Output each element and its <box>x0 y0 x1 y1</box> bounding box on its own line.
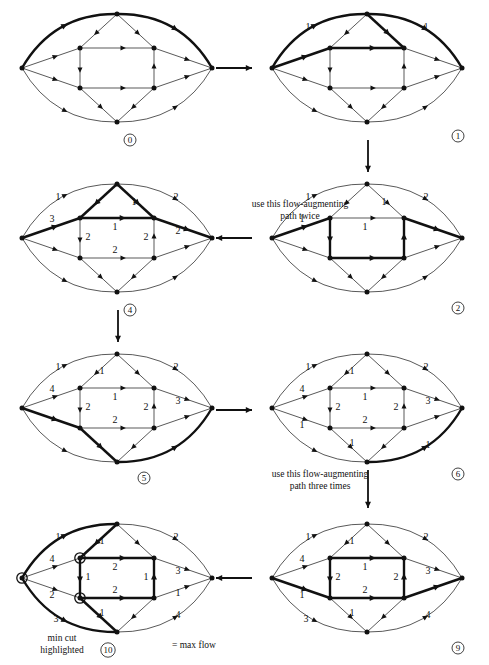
node-snk <box>210 406 215 411</box>
edge-label-ibl-to-ibr: 2 <box>363 414 368 425</box>
edge-label-ibl-to-bot: 1 <box>350 437 355 448</box>
edge-label-ibl-to-ibr: 2 <box>363 584 368 595</box>
node-ibr <box>402 426 407 431</box>
edge-label-src-to-itl: 3 <box>50 213 55 224</box>
edge-label-itl-to-ibl: 2 <box>336 401 341 412</box>
edge-label-ibr-to-itr: 2 <box>394 571 399 582</box>
node-bot <box>365 120 370 125</box>
node-src <box>20 236 25 241</box>
edge-label-src-to-ibl: 2 <box>50 589 55 600</box>
node-ibr <box>152 596 157 601</box>
node-itl <box>328 46 333 51</box>
node-top <box>115 182 120 187</box>
node-src <box>20 576 25 581</box>
edge-label-bot-to-sink: 4 <box>176 609 181 620</box>
edge-label-itl-to-itr: 1 <box>113 391 118 402</box>
node-snk <box>460 576 465 581</box>
node-ibr <box>152 256 157 261</box>
node-itr <box>402 46 407 51</box>
edge-label-ibl-to-bot: 1 <box>100 607 105 618</box>
node-ibr <box>152 86 157 91</box>
edge-label-itl-to-itr: 2 <box>113 561 118 572</box>
note-use-path-three-line1: use this flow-augmenting <box>272 469 369 479</box>
node-bot <box>365 630 370 635</box>
node-ibl <box>328 256 333 261</box>
node-src <box>270 236 275 241</box>
edge-label-top-right-outer: 2 <box>174 531 179 542</box>
edge-label-itr-to-sink: 3 <box>426 565 431 576</box>
edge-label-itl-to-itr: 1 <box>113 221 118 232</box>
edge-label-ibl-to-ibr: 2 <box>113 414 118 425</box>
edge-label-src-to-bot: 3 <box>54 613 59 624</box>
edge-label-top-right-outer: 2 <box>424 531 429 542</box>
figure-canvas: 0111121112123112222412141222351214112223… <box>0 0 489 665</box>
node-ibr <box>402 256 407 261</box>
note-use-path-twice-line1: use this flow-augmenting <box>252 199 349 209</box>
node-top <box>115 12 120 17</box>
svg-text:5: 5 <box>142 473 147 483</box>
node-itr <box>402 556 407 561</box>
edge-label-src-to-itl: 4 <box>300 553 305 564</box>
node-ibr <box>402 596 407 601</box>
node-src <box>20 66 25 71</box>
node-ibr <box>152 426 157 431</box>
svg-text:1: 1 <box>456 131 461 141</box>
edge-label-top-to-itl: 1 <box>100 365 105 376</box>
note-max-flow: = max flow <box>172 640 216 650</box>
edge-label-ibr-to-sink: 1 <box>176 587 181 598</box>
edge-label-bot-to-sink: 1 <box>426 439 431 450</box>
node-top <box>115 352 120 357</box>
node-src <box>270 66 275 71</box>
edge-label-top-right-outer: 2 <box>174 191 179 202</box>
edge-label-top-left-outer: 1 <box>306 361 311 372</box>
node-ibr <box>402 86 407 91</box>
edge-label-ibr-to-itr: 2 <box>394 401 399 412</box>
edge-label-top-left-outer: 1 <box>56 361 61 372</box>
node-ibl <box>78 256 83 261</box>
edge-label-src-to-itl: 4 <box>300 383 305 394</box>
node-src <box>20 406 25 411</box>
node-itr <box>152 386 157 391</box>
node-itl <box>78 216 83 221</box>
note-min-cut-line1: min cut <box>48 633 77 643</box>
node-itl <box>328 386 333 391</box>
node-itl <box>328 216 333 221</box>
node-itr <box>402 216 407 221</box>
node-itl <box>78 386 83 391</box>
edge-label-itr-to-sink: 3 <box>176 395 181 406</box>
edge-label-src-to-itl: 4 <box>50 383 55 394</box>
note-min-cut-line2: highlighted <box>40 645 84 655</box>
flow-network-figure: 0111121112123112222412141222351214112223… <box>0 0 489 665</box>
node-itr <box>152 216 157 221</box>
node-top <box>365 352 370 357</box>
node-top <box>115 522 120 527</box>
edge-label-itr-to-sink: 3 <box>176 565 181 576</box>
node-ibl <box>78 596 83 601</box>
edge-label-top-left-outer: 1 <box>306 21 311 32</box>
node-src <box>270 406 275 411</box>
node-itl <box>328 556 333 561</box>
edge-label-top-to-itl: 1 <box>100 535 105 546</box>
edge-label-itr-to-top: 1 <box>132 196 137 207</box>
edge-label-src-to-itl: 4 <box>50 553 55 564</box>
node-bot <box>115 460 120 465</box>
edge-label-top-right-outer: 1 <box>424 21 429 32</box>
note-use-path-three-line2: path three times <box>290 481 351 491</box>
edge-label-itr-to-top: 1 <box>382 196 387 207</box>
edge-label-itl-to-ibl: 2 <box>336 571 341 582</box>
node-src <box>270 576 275 581</box>
node-bot <box>365 460 370 465</box>
node-snk <box>460 406 465 411</box>
svg-text:6: 6 <box>456 469 461 479</box>
node-ibl <box>328 596 333 601</box>
svg-text:9: 9 <box>456 643 461 653</box>
node-top <box>365 522 370 527</box>
edge-label-top-right-outer: 2 <box>424 191 429 202</box>
node-ibl <box>328 86 333 91</box>
note-use-path-twice-line2: path twice <box>280 211 319 221</box>
svg-text:4: 4 <box>128 305 133 315</box>
edge-label-ibl-to-bot: 1 <box>350 607 355 618</box>
node-bot <box>115 120 120 125</box>
node-itl <box>78 46 83 51</box>
edge-label-top-to-itl: 1 <box>350 365 355 376</box>
